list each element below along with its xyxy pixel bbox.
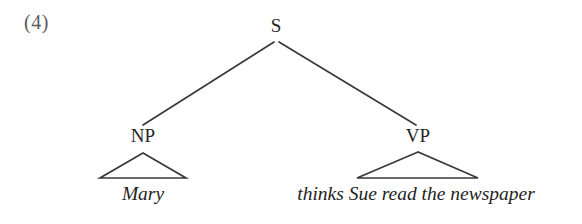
terminal-text-vp: thinks Sue read the newspaper [297,184,535,204]
triangle-np [100,153,186,178]
terminal-text-np: Mary [122,184,164,204]
tree-node-vp: VP [406,126,430,145]
syntax-tree-figure: (4) S NP VP Mary thinks Sue read the new… [0,0,582,224]
branch-s-to-vp [279,42,416,125]
triangle-vp [357,152,478,178]
branch-s-to-np [143,42,274,125]
tree-node-s: S [271,16,282,35]
tree-node-np: NP [131,126,155,145]
